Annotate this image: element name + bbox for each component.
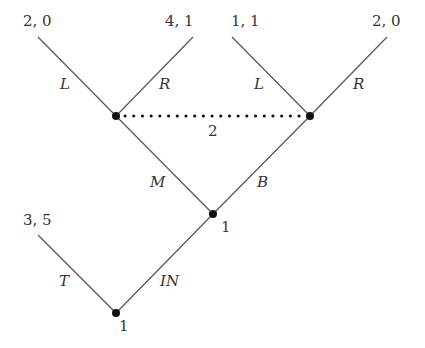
action-label-T: T <box>59 272 70 290</box>
edge-M <box>116 116 213 214</box>
action-label-right-L: L <box>253 75 264 93</box>
action-label-B: B <box>256 173 268 191</box>
payoff-M-L: 2, 0 <box>23 12 52 30</box>
edge-T <box>38 235 116 313</box>
action-label-right-R: R <box>352 75 364 93</box>
info-set-player-label: 2 <box>208 122 218 140</box>
root-player-label: 1 <box>119 317 129 335</box>
action-label-left-L: L <box>59 75 70 93</box>
payoff-M-R: 4, 1 <box>165 12 194 30</box>
middle-player-label: 1 <box>221 218 231 236</box>
payoff-B-L: 1, 1 <box>231 12 260 30</box>
info-set-right-node <box>306 112 314 120</box>
edge-M-R <box>116 37 193 116</box>
action-label-IN: IN <box>159 272 180 290</box>
middle-node <box>209 210 217 218</box>
edge-M-L <box>38 37 116 116</box>
edge-B-R <box>310 37 387 116</box>
payoff-T: 3, 5 <box>23 211 52 229</box>
root-node <box>112 309 120 317</box>
payoff-B-R: 2, 0 <box>372 12 401 30</box>
edge-IN <box>116 214 213 313</box>
action-label-M: M <box>149 173 166 191</box>
game-tree-diagram: 1 1 2 T IN M B L R L R 3, 5 2, 0 4, 1 1,… <box>0 0 425 348</box>
info-set-left-node <box>112 112 120 120</box>
action-label-left-R: R <box>158 75 170 93</box>
edge-B <box>213 116 310 214</box>
edge-B-L <box>232 37 310 116</box>
